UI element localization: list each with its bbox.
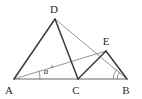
vertex-label-A: A — [5, 84, 13, 96]
angle-degree-symbol: ° — [51, 65, 54, 71]
geometry-canvas: A C B D E a ° — [0, 0, 142, 99]
vertex-label-B: B — [122, 84, 129, 96]
segment-DC — [55, 19, 78, 79]
geometry-figure: A C B D E a ° — [0, 0, 142, 99]
angle-arc-B-inner — [117, 72, 120, 79]
angle-arc-B-outer — [113, 70, 117, 79]
angle-label-a: a — [44, 66, 49, 76]
vertex-label-D: D — [50, 3, 58, 15]
segment-AD — [14, 19, 55, 79]
vertex-label-E: E — [103, 35, 110, 47]
angle-arc-A — [39, 71, 40, 79]
vertex-label-C: C — [72, 84, 79, 96]
segment-EB — [106, 51, 127, 79]
